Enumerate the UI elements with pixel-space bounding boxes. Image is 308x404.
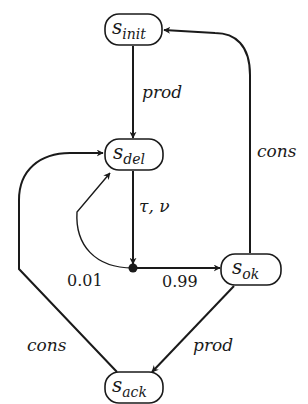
state-s-init: sinit: [105, 14, 162, 45]
edge-ok-to-ack: [152, 286, 234, 372]
label-tau-nu: τ, ν: [139, 196, 170, 216]
label-prod-init-del: prod: [142, 82, 182, 102]
label-cons-ok-init: cons: [257, 141, 297, 161]
edge-ok-to-init: [164, 30, 250, 253]
label-prod-ok-ack: prod: [193, 335, 233, 355]
edge-branch-to-del-loop: [77, 173, 133, 268]
state-diagram: sinit sdel sok sack prod τ, ν 0.01 0.99 …: [0, 0, 308, 404]
branch-point: [129, 264, 138, 273]
label-cons-ack-del: cons: [27, 335, 67, 355]
state-s-del: sdel: [105, 139, 163, 170]
label-0-99: 0.99: [162, 272, 198, 291]
state-s-ok: sok: [221, 254, 281, 285]
state-s-ack: sack: [105, 372, 163, 403]
label-0-01: 0.01: [67, 271, 103, 290]
